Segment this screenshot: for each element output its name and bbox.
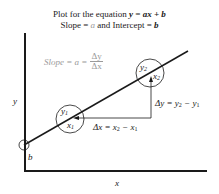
dy-lhs: Δy = y [155, 98, 179, 108]
delta-x-equation: Δx = x2 − x1 [93, 122, 137, 134]
slope-formula: Slope = a = Δy Δx [44, 52, 103, 71]
p2-x-sub: 2 [157, 75, 160, 81]
slope-formula-prefix: Slope = a = [44, 57, 87, 67]
dy-mid: − y [182, 98, 197, 108]
y-axis-label: y [13, 96, 17, 106]
dx-mid: − x [120, 122, 135, 132]
dy-sub1: 1 [196, 102, 199, 108]
dx-sub1: 1 [134, 126, 137, 132]
p1-x-sub: 1 [71, 124, 74, 130]
point2-x-label: x2 [153, 71, 160, 83]
plot-graphic [0, 0, 219, 194]
intercept-label: b [28, 152, 33, 162]
delta-y-equation: Δy = y2 − y1 [155, 98, 199, 110]
point2-y-label: y2 [140, 62, 147, 74]
point1-y-label: y1 [61, 106, 68, 118]
slope-denominator: Δx [90, 62, 102, 71]
dx-lhs: Δx = x [93, 122, 117, 132]
p2-y-sub: 2 [144, 66, 147, 72]
p1-y-sub: 1 [65, 110, 68, 116]
x-axis-label: x [115, 178, 119, 188]
slope-fraction: Δy Δx [90, 52, 102, 71]
point1-x-label: x1 [67, 120, 74, 132]
